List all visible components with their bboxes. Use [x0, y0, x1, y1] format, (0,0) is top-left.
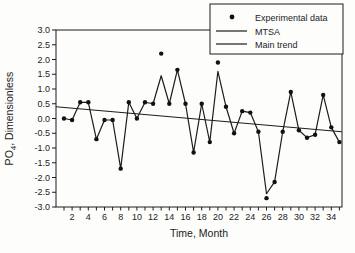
x-axis-tick-label: 34	[326, 212, 336, 222]
x-axis-title: Time, Month	[170, 227, 228, 239]
y-axis-tick-label: 2.0	[37, 55, 50, 65]
y-axis-tick-label: -2.5	[34, 187, 50, 197]
experimental-data-point	[191, 150, 195, 154]
y-axis-tick-label: 3.0	[37, 25, 50, 35]
experimental-data-point	[159, 51, 163, 55]
y-axis-title: PO4, Dimensionless	[3, 72, 18, 166]
experimental-data-point	[216, 60, 220, 64]
experimental-data-point	[143, 100, 147, 104]
experimental-data-point	[183, 102, 187, 106]
x-axis-tick-label: 10	[132, 212, 142, 222]
experimental-data-point	[305, 135, 309, 139]
experimental-data-point	[102, 118, 106, 122]
x-axis-tick-label: 20	[213, 212, 223, 222]
experimental-data-point	[208, 140, 212, 144]
y-axis-tick-label: 1.0	[37, 84, 50, 94]
y-axis-tick-label: 0.0	[37, 114, 50, 124]
experimental-data-point	[135, 116, 139, 120]
legend: Experimental dataMTSAMain trend	[210, 4, 343, 54]
y-axis-tick-label: -3.0	[34, 202, 50, 212]
experimental-data-point	[78, 100, 82, 104]
y-axis-tick-label: -0.5	[34, 128, 50, 138]
experimental-data-point	[272, 180, 276, 184]
x-axis-tick-label: 16	[180, 212, 190, 222]
y-axis-tick-label: 0.5	[37, 99, 50, 109]
experimental-data-point	[94, 137, 98, 141]
y-axis-tick-label: -1.0	[34, 143, 50, 153]
x-axis-tick-label: 22	[229, 212, 239, 222]
experimental-data-point	[289, 90, 293, 94]
x-axis-tick-label: 4	[86, 212, 91, 222]
experimental-data-point	[240, 109, 244, 113]
experimental-data-point	[329, 125, 333, 129]
x-axis-tick-label: 30	[294, 212, 304, 222]
experimental-data-point	[200, 102, 204, 106]
x-axis-tick-label: 14	[164, 212, 174, 222]
experimental-data-point	[70, 118, 74, 122]
legend-label: Main trend	[255, 40, 298, 50]
legend-dot-marker	[230, 15, 235, 20]
legend-label: Experimental data	[255, 13, 328, 23]
experimental-data-point	[297, 128, 301, 132]
x-axis-tick-label: 26	[261, 212, 271, 222]
experimental-data-point	[110, 118, 114, 122]
x-axis-tick-label: 28	[278, 212, 288, 222]
experimental-data-point	[337, 140, 341, 144]
experimental-data-point	[167, 102, 171, 106]
y-axis-tick-label: 1.5	[37, 69, 50, 79]
experimental-data-point	[175, 68, 179, 72]
figure: 3.02.52.01.51.00.50.0-0.5-1.0-1.5-2.0-2.…	[0, 0, 355, 253]
x-axis-tick-label: 32	[310, 212, 320, 222]
experimental-data-point	[313, 133, 317, 137]
y-axis-tick-label: 2.5	[37, 40, 50, 50]
x-axis-tick-label: 24	[245, 212, 255, 222]
experimental-data-point	[256, 130, 260, 134]
x-axis-tick-label: 8	[118, 212, 123, 222]
experimental-data-point	[127, 100, 131, 104]
experimental-data-point	[232, 131, 236, 135]
experimental-data-point	[62, 116, 66, 120]
chart-svg: 3.02.52.01.51.00.50.0-0.5-1.0-1.5-2.0-2.…	[0, 0, 355, 253]
experimental-data-point	[119, 166, 123, 170]
experimental-data-point	[224, 105, 228, 109]
experimental-data-point	[281, 130, 285, 134]
experimental-data-point	[321, 93, 325, 97]
experimental-data-point	[151, 102, 155, 106]
x-axis-tick-label: 18	[197, 212, 207, 222]
experimental-data-point	[248, 110, 252, 114]
x-axis-tick-label: 2	[70, 212, 75, 222]
experimental-data-point	[264, 196, 268, 200]
legend-label: MTSA	[255, 27, 280, 37]
experimental-data-point	[86, 100, 90, 104]
y-axis-tick-label: -1.5	[34, 158, 50, 168]
x-axis-tick-label: 12	[148, 212, 158, 222]
y-axis-tick-label: -2.0	[34, 173, 50, 183]
x-axis-tick-label: 6	[102, 212, 107, 222]
